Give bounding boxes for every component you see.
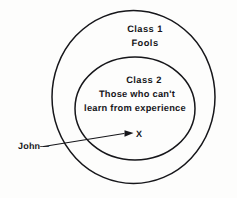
diagram-canvas: Class 1 Fools Class 2 Those who can't le… xyxy=(0,0,237,198)
outer-set-subtitle: Fools xyxy=(131,38,158,48)
john-dash-icon: — xyxy=(40,141,49,151)
venn-diagram: Class 1 Fools Class 2 Those who can't le… xyxy=(0,0,237,198)
inner-set-title: Class 2 xyxy=(126,75,162,85)
member-marker-x: X xyxy=(136,129,142,139)
john-annotation-label: John xyxy=(18,141,40,151)
outer-set-title: Class 1 xyxy=(127,24,163,34)
arrow-head-icon xyxy=(125,130,134,137)
inner-set-description-line-2: learn from experience xyxy=(84,103,186,113)
inner-set-description-line-1: Those who can't xyxy=(99,89,175,99)
